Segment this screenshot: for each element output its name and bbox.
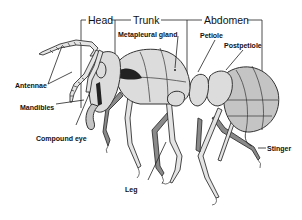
label-antennae: Antennae [15, 82, 47, 89]
mandible-shape [86, 104, 98, 130]
section-label-trunk: Trunk [133, 14, 160, 26]
section-label-abdomen: Abdomen [204, 14, 249, 26]
label-metapleural-gland: Metapleural gland [118, 31, 178, 39]
ant-anatomy-diagram: Head Trunk Abdomen Metapleural gland Pet… [0, 0, 302, 220]
label-leg: Leg [125, 186, 137, 194]
section-label-head: Head [88, 14, 113, 26]
label-stinger: Stinger [267, 145, 291, 153]
label-petiole: Petiole [200, 32, 223, 39]
trunk-body [116, 48, 190, 106]
label-compound-eye: Compound eye [36, 135, 87, 143]
label-mandibles: Mandibles [20, 104, 54, 111]
label-postpetiole: Postpetiole [224, 42, 262, 50]
petiole-node [189, 74, 208, 106]
gaster [223, 66, 279, 132]
